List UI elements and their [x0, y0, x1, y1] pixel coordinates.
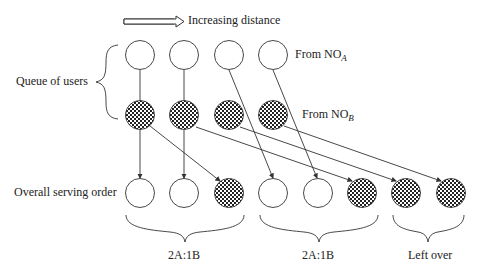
serving-order-row	[126, 179, 466, 208]
queue-of-users-label: Queue of users	[16, 74, 88, 89]
diagram-canvas: Increasing distance Queue of users From …	[0, 0, 482, 274]
from-a-label: From NOA	[295, 47, 347, 63]
group-braces	[126, 215, 464, 242]
from-b-label: From NOB	[302, 107, 354, 123]
group-label-1: 2A:1B	[168, 248, 200, 263]
group-label-leftover: Left over	[408, 248, 452, 263]
from-a-row	[126, 41, 288, 70]
queue-brace-icon	[96, 45, 118, 119]
serving-order-diagram	[0, 0, 482, 274]
group-label-2: 2A:1B	[302, 248, 334, 263]
increasing-distance-arrow-icon	[124, 16, 184, 27]
from-a-prefix: From NO	[295, 47, 341, 61]
increasing-distance-label: Increasing distance	[188, 13, 280, 28]
from-a-subscript: A	[341, 53, 347, 63]
from-b-row	[126, 101, 288, 130]
from-b-subscript: B	[348, 113, 354, 123]
serving-order-label: Overall serving order	[14, 185, 117, 200]
from-b-prefix: From NO	[302, 107, 348, 121]
